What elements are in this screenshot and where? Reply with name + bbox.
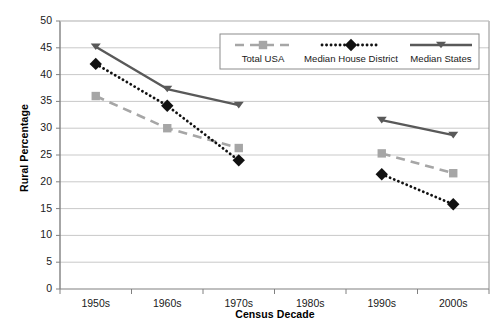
series-line: [382, 153, 454, 173]
x-axis-title: Census Decade: [60, 308, 490, 320]
y-tick-label: 5: [26, 255, 52, 267]
x-tick-label: 2000s: [418, 297, 488, 309]
marker-square: [235, 144, 243, 152]
marker-square: [378, 149, 386, 157]
series-line: [382, 120, 454, 135]
marker-square: [163, 124, 171, 132]
y-tick-label: 0: [26, 282, 52, 294]
y-tick-label: 20: [26, 175, 52, 187]
rural-percentage-line-chart: Rural Percentage Census Decade 051015202…: [0, 0, 502, 327]
series-line: [382, 174, 454, 204]
marker-diamond: [90, 58, 102, 70]
x-tick-label: 1990s: [347, 297, 417, 309]
y-tick-label: 25: [26, 148, 52, 160]
y-tick-label: 40: [26, 68, 52, 80]
series-total-usa: [92, 92, 458, 178]
x-tick-label: 1970s: [204, 297, 274, 309]
legend-label: Total USA: [242, 53, 285, 64]
series-median-house-district: [90, 58, 460, 211]
marker-square: [449, 169, 457, 177]
series-line: [96, 47, 239, 105]
x-tick-label: 1950s: [61, 297, 131, 309]
legend-label: Median States: [410, 53, 472, 64]
series-line: [96, 64, 239, 160]
marker-square: [259, 41, 267, 49]
x-tick-label: 1980s: [275, 297, 345, 309]
y-tick-label: 45: [26, 41, 52, 53]
marker-diamond: [376, 168, 388, 180]
y-tick-label: 15: [26, 202, 52, 214]
chart-legend: Total USAMedian House DistrictMedian Sta…: [220, 34, 479, 69]
legend-label: Median House District: [304, 53, 398, 64]
plot-area: Total USAMedian House DistrictMedian Sta…: [0, 0, 502, 327]
y-tick-label: 35: [26, 94, 52, 106]
y-tick-label: 10: [26, 228, 52, 240]
y-tick-label: 50: [26, 14, 52, 26]
x-tick-label: 1960s: [132, 297, 202, 309]
y-tick-label: 30: [26, 121, 52, 133]
marker-square: [92, 92, 100, 100]
